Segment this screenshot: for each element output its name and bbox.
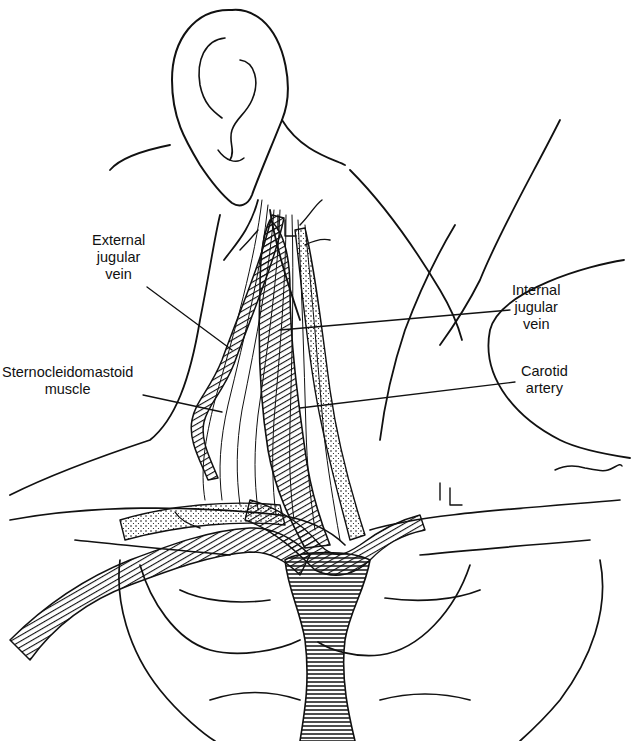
label-line: Sternocleidomastoid [2,364,133,381]
sternum [285,553,370,741]
label-line: jugular [92,249,145,266]
label-external-jugular-vein: External jugular vein [92,232,145,283]
label-internal-jugular-vein: Internal jugular vein [512,282,560,333]
label-sternocleidomastoid-muscle: Sternocleidomastoid muscle [2,364,133,398]
label-line: vein [512,316,560,333]
label-carotid-artery: Carotid artery [521,363,568,397]
ear [172,10,288,206]
label-line: jugular [512,299,560,316]
label-line: vein [92,266,145,283]
label-line: muscle [2,381,133,398]
label-line: Carotid [521,363,568,380]
label-line: External [92,232,145,249]
artist-signature [555,465,622,471]
label-line: artery [521,380,568,397]
label-line: Internal [512,282,560,299]
